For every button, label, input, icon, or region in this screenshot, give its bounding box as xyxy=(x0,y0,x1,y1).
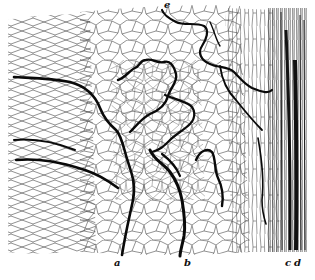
tissue-illustration: e a b c d xyxy=(0,0,315,280)
label-b: b xyxy=(184,258,191,268)
figure-caption xyxy=(0,271,315,280)
label-d: d xyxy=(294,258,301,268)
label-e: e xyxy=(164,0,170,10)
tissue-drawing xyxy=(0,0,315,280)
label-c: c xyxy=(285,258,291,268)
label-a: a xyxy=(114,258,120,268)
